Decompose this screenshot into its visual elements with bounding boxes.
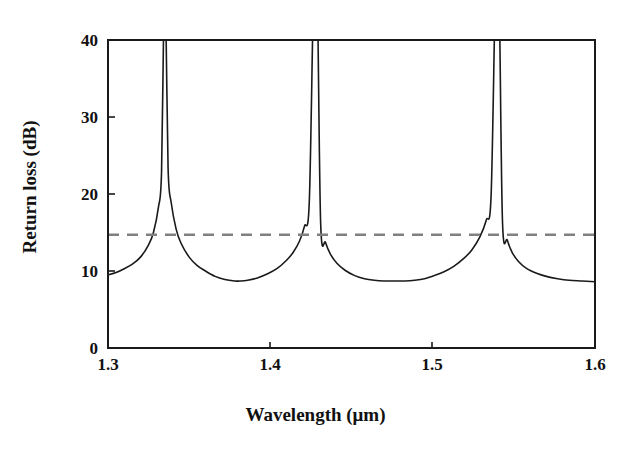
x-tick-label-1-3: 1.3 <box>78 355 138 375</box>
x-tick-label-1-6: 1.6 <box>565 355 625 375</box>
return-loss-figure: 40 30 20 10 0 1.3 1.4 1.5 1.6 Wavelength… <box>0 0 631 462</box>
y-axis-title: Return loss (dB) <box>19 77 41 297</box>
y-tick-label-20: 20 <box>52 185 98 205</box>
y-tick-label-40: 40 <box>52 31 98 51</box>
x-tick-label-1-4: 1.4 <box>240 355 300 375</box>
plot-area-background <box>108 40 595 348</box>
chart-canvas <box>0 0 631 462</box>
y-tick-label-10: 10 <box>52 262 98 282</box>
x-tick-label-1-5: 1.5 <box>402 355 462 375</box>
x-axis-title: Wavelength (μm) <box>0 404 631 426</box>
y-tick-label-30: 30 <box>52 108 98 128</box>
